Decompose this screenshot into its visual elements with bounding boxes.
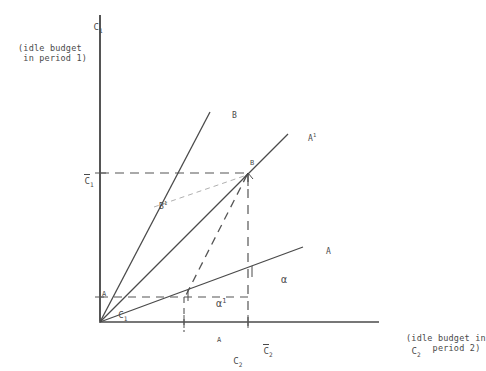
c2-bar-glyph: C (263, 346, 269, 356)
x-axis-description: (idle budget in period 2) (406, 334, 486, 353)
y-axis-description: (idle budget in period 1) (18, 44, 87, 63)
annotation-label-B1: B1 (139, 194, 168, 221)
y-axis-name: C1 (71, 12, 103, 42)
angle-label-alpha-one: α1 (191, 287, 226, 321)
y-tick-label-c1-bar: C1 (62, 166, 94, 196)
ray-label-A: A (306, 239, 331, 266)
c1-bar-glyph: C (84, 176, 90, 186)
ray-label-A1: A1 (288, 126, 317, 153)
c2-A-superscript: A (217, 337, 221, 345)
ray-label-B: B (212, 103, 237, 130)
x-tick-label-c2-A: AC2 (177, 336, 243, 371)
point-B-marker-right (248, 173, 253, 179)
x-tick-label-c2-bar: C2 (241, 336, 273, 366)
c1-A-superscript: A (102, 291, 106, 299)
y-tick-label-c1-A: AC1 (62, 290, 128, 330)
point-label-B: B (250, 160, 254, 168)
angle-label-alpha: α (256, 263, 287, 297)
